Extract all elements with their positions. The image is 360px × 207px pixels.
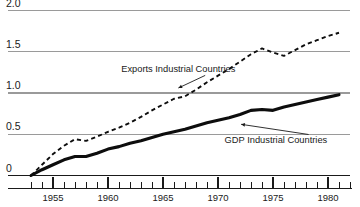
leader-arrowhead	[241, 123, 245, 127]
x-axis-ticks	[31, 177, 350, 189]
line-chart: 2.01.51.00.50 195519601965197019751980 E…	[0, 0, 360, 207]
leader-line	[241, 124, 309, 134]
x-tick-label: 1960	[97, 192, 118, 203]
x-tick-label: 1955	[42, 192, 63, 203]
gridlines	[8, 11, 350, 176]
series-label: GDP Industrial Countries	[225, 135, 328, 145]
chart-container: 2.01.51.00.50 195519601965197019751980 E…	[0, 0, 360, 207]
x-tick-label: 1975	[262, 192, 283, 203]
y-tick-label: 0.5	[6, 120, 21, 132]
y-axis-tick-labels: 2.01.51.00.50	[6, 0, 21, 174]
data-series	[31, 33, 339, 176]
x-axis-tick-labels: 195519601965197019751980	[42, 192, 338, 203]
y-tick-label: 1.0	[6, 79, 21, 91]
x-tick-label: 1980	[317, 192, 338, 203]
y-tick-label: 2.0	[6, 0, 21, 9]
x-tick-label: 1965	[152, 192, 173, 203]
x-tick-label: 1970	[207, 192, 228, 203]
y-tick-label: 1.5	[6, 38, 21, 50]
series-label: Exports Industrial Countries	[121, 64, 236, 74]
y-tick-label: 0	[6, 162, 12, 174]
